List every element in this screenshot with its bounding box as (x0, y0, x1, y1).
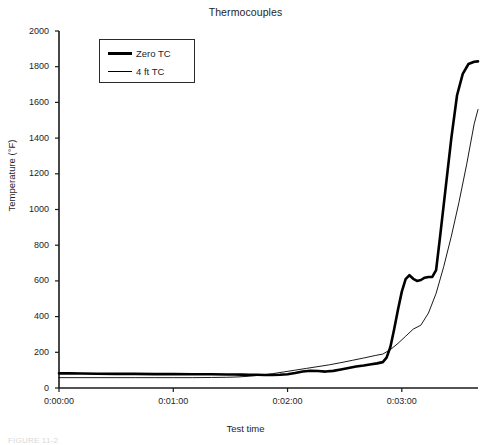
legend-label-zero-tc: Zero TC (136, 48, 171, 59)
y-tick-label: 600 (11, 276, 49, 285)
y-tick-label: 1000 (11, 205, 49, 214)
chart-figure: Thermocouples Temperature (°F) Test time… (0, 0, 491, 445)
x-tick-label: 0:03:00 (367, 397, 437, 406)
figure-caption-ghost: FIGURE 11-2 (8, 436, 58, 445)
y-tick-label: 800 (11, 241, 49, 250)
legend-item-4ft-tc: 4 ft TC (108, 64, 164, 78)
y-tick-label: 1800 (11, 62, 49, 71)
y-tick-label: 2000 (11, 27, 49, 36)
y-tick-label: 1400 (11, 134, 49, 143)
x-tick-label: 0:01:00 (138, 397, 208, 406)
legend-line-swatch-4ft-tc (108, 71, 132, 72)
axes (59, 31, 478, 388)
x-tick-label: 0:00:00 (24, 397, 94, 406)
chart-legend: Zero TC 4 ft TC (99, 39, 195, 83)
y-tick-label: 0 (11, 384, 49, 393)
data-series-line-4-ft-tc (59, 110, 478, 378)
legend-label-4ft-tc: 4 ft TC (136, 66, 164, 77)
plot-area (0, 0, 491, 445)
y-tick-label: 200 (11, 348, 49, 357)
legend-item-zero-tc: Zero TC (108, 46, 171, 60)
legend-line-swatch-zero-tc (108, 52, 132, 55)
data-series-group (59, 61, 478, 377)
y-tick-label: 400 (11, 312, 49, 321)
y-tick-label: 1600 (11, 98, 49, 107)
x-tick-label: 0:02:00 (253, 397, 323, 406)
y-tick-label: 1200 (11, 169, 49, 178)
